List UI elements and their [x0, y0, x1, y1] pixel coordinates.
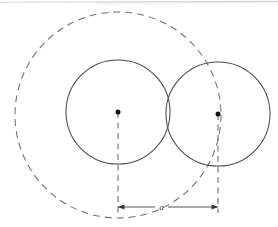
geometry-diagram: a	[0, 0, 278, 227]
left-center-point	[116, 110, 121, 115]
right-center-point	[216, 112, 221, 117]
figure-canvas: a	[0, 0, 278, 227]
dimension-arrowhead-left	[118, 205, 125, 210]
dimension-label-a: a	[159, 202, 164, 212]
dimension-arrowhead-right	[212, 205, 219, 210]
scan-edge-line-secondary	[96, 2, 278, 3]
